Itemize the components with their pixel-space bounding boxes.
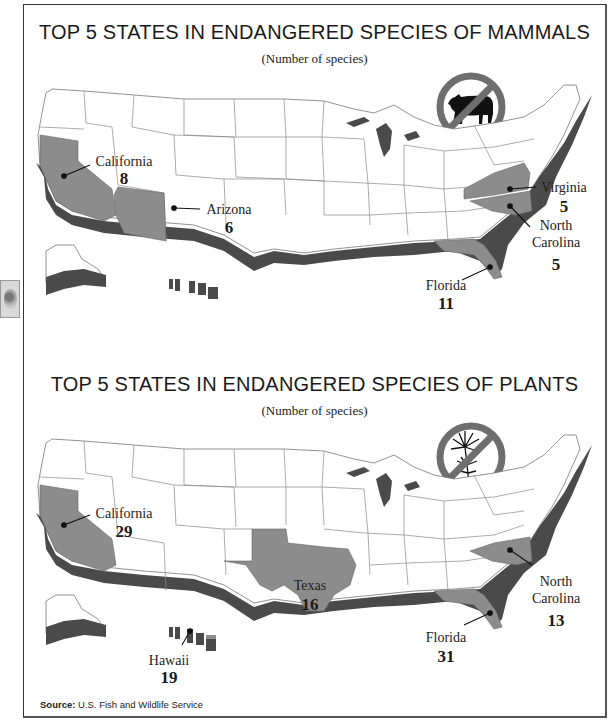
plants-value-texas: 16 <box>280 595 340 615</box>
plants-label-california: California <box>82 505 166 522</box>
plants-label-hawaii: Hawaii <box>139 652 199 669</box>
mammals-title: TOP 5 STATES IN ENDANGERED SPECIES OF MA… <box>24 21 605 44</box>
infographic-frame: TOP 5 STATES IN ENDANGERED SPECIES OF MA… <box>23 4 607 718</box>
mammals-label-florida: Florida <box>416 277 476 294</box>
plants-value-california: 29 <box>82 522 166 542</box>
mammals-value-virginia: 5 <box>534 197 594 217</box>
source-text: U.S. Fish and Wildlife Service <box>78 699 203 710</box>
plants-value-north-carolina: 13 <box>520 611 592 631</box>
plants-label-florida: Florida <box>416 629 476 646</box>
mammals-label-north-carolina: North Carolina <box>520 217 592 251</box>
plants-us-map <box>24 415 608 685</box>
mammals-value-north-carolina: 5 <box>520 255 592 275</box>
mammals-label-virginia: Virginia <box>534 179 594 196</box>
mammals-value-florida: 11 <box>416 294 476 314</box>
seal-thumbnail <box>0 280 20 318</box>
plants-value-florida: 31 <box>416 647 476 667</box>
mammals-us-map <box>24 65 608 335</box>
mammals-label-california: California <box>82 153 166 170</box>
plants-title: TOP 5 STATES IN ENDANGERED SPECIES OF PL… <box>24 373 605 396</box>
mammals-label-arizona: Arizona <box>194 201 264 218</box>
mammals-value-arizona: 6 <box>194 218 264 238</box>
source-label: Source: <box>40 699 75 710</box>
plants-label-texas: Texas <box>280 577 340 594</box>
mammals-value-california: 8 <box>82 169 166 189</box>
seal-icon <box>4 289 17 309</box>
source-note: Source: U.S. Fish and Wildlife Service <box>40 699 203 710</box>
plants-value-hawaii: 19 <box>139 668 199 688</box>
plants-label-north-carolina: North Carolina <box>520 573 592 607</box>
